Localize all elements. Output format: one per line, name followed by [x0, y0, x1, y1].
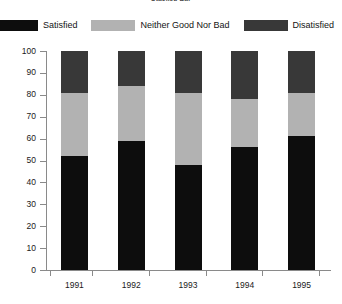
- x-axis-line: [46, 270, 331, 271]
- bar-segment-1993-disatisfied[interactable]: [175, 51, 202, 93]
- x-axis-tick: [92, 271, 93, 276]
- x-axis-tick: [319, 271, 320, 276]
- bar-segment-1994-satisfied[interactable]: [231, 147, 258, 270]
- legend-swatch-icon: [244, 20, 288, 31]
- bar-segment-1991-neither-good-nor-bad[interactable]: [61, 93, 88, 157]
- y-axis-tick-label: 60: [0, 134, 36, 143]
- y-axis-tick-label: 40: [0, 178, 36, 187]
- bar-segment-1992-satisfied[interactable]: [118, 141, 145, 270]
- chart-legend: SatisfiedNeither Good Nor BadDisatisfied: [0, 19, 342, 32]
- bar-segment-1995-neither-good-nor-bad[interactable]: [288, 93, 315, 137]
- x-axis-tick: [149, 271, 150, 276]
- y-axis-tick-label: 50: [0, 156, 36, 165]
- bar-group-1993[interactable]: [175, 51, 202, 270]
- legend-label: Disatisfied: [288, 20, 342, 31]
- legend-item-satisfied[interactable]: Satisfied: [0, 19, 91, 32]
- x-axis-tick: [206, 271, 207, 276]
- x-axis-tick-label: 1993: [168, 281, 208, 290]
- bar-group-1991[interactable]: [61, 51, 88, 270]
- bar-segment-1993-satisfied[interactable]: [175, 165, 202, 270]
- stacked-bar-chart: Stacked Bar SatisfiedNeither Good Nor Ba…: [0, 0, 342, 304]
- x-axis-tick-label: 1995: [282, 281, 322, 290]
- plot-area: [46, 51, 330, 270]
- x-axis-tick-label: 1991: [54, 281, 94, 290]
- bar-segment-1991-disatisfied[interactable]: [61, 51, 88, 93]
- bar-group-1994[interactable]: [231, 51, 258, 270]
- y-axis-tick: [40, 270, 46, 271]
- legend-label: Satisfied: [38, 20, 92, 31]
- legend-label: Neither Good Nor Bad: [135, 20, 243, 31]
- bar-group-1995[interactable]: [288, 51, 315, 270]
- bar-segment-1994-neither-good-nor-bad[interactable]: [231, 99, 258, 147]
- bar-segment-1993-neither-good-nor-bad[interactable]: [175, 93, 202, 165]
- y-axis-tick-label: 30: [0, 200, 36, 209]
- y-axis-tick-label: 80: [0, 90, 36, 99]
- chart-title: Stacked Bar: [0, 0, 342, 2]
- x-axis-tick: [50, 271, 51, 276]
- y-axis-tick-label: 100: [0, 47, 36, 56]
- legend-swatch-icon: [91, 20, 135, 31]
- legend-item-disatisfied[interactable]: Disatisfied: [244, 19, 342, 32]
- x-axis-tick-label: 1992: [111, 281, 151, 290]
- bar-segment-1991-satisfied[interactable]: [61, 156, 88, 270]
- x-axis-tick: [262, 271, 263, 276]
- y-axis-tick-label: 90: [0, 68, 36, 77]
- y-axis-tick-label: 0: [0, 266, 36, 275]
- bar-segment-1994-disatisfied[interactable]: [231, 51, 258, 99]
- y-axis-tick-label: 10: [0, 244, 36, 253]
- bar-segment-1995-disatisfied[interactable]: [288, 51, 315, 93]
- bar-segment-1992-disatisfied[interactable]: [118, 51, 145, 86]
- bar-segment-1992-neither-good-nor-bad[interactable]: [118, 86, 145, 141]
- x-axis-tick-label: 1994: [225, 281, 265, 290]
- y-axis-tick-label: 20: [0, 222, 36, 231]
- legend-item-neither-good-nor-bad[interactable]: Neither Good Nor Bad: [91, 19, 243, 32]
- y-axis-tick-label: 70: [0, 112, 36, 121]
- bar-group-1992[interactable]: [118, 51, 145, 270]
- legend-swatch-icon: [0, 20, 38, 31]
- bar-segment-1995-satisfied[interactable]: [288, 136, 315, 270]
